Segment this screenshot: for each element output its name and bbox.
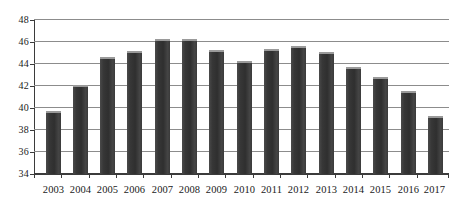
- x-tick-label-2014: 2014: [343, 184, 364, 196]
- x-tick-mark-5: [171, 174, 172, 178]
- bar-2003[interactable]: [46, 111, 61, 174]
- x-tick-label-2016: 2016: [398, 184, 419, 196]
- bar-2007[interactable]: [155, 39, 170, 174]
- y-tick-label-48: 48: [19, 15, 29, 25]
- x-tick-label-2013: 2013: [316, 184, 337, 196]
- y-tick-label-36: 36: [19, 147, 29, 157]
- y-tick-label-46: 46: [19, 37, 29, 47]
- x-tick-mark-4: [143, 174, 144, 178]
- x-tick-mark-3: [116, 174, 117, 178]
- bar-2008[interactable]: [182, 39, 197, 174]
- x-tick-label-2003: 2003: [43, 184, 64, 196]
- bar-2013[interactable]: [319, 52, 334, 174]
- x-tick-mark-11: [335, 174, 336, 178]
- bar-2010[interactable]: [237, 61, 252, 174]
- x-tick-label-2005: 2005: [97, 184, 118, 196]
- x-tick-label-2015: 2015: [370, 184, 391, 196]
- y-tick-label-44: 44: [19, 59, 29, 69]
- x-tick-mark-12: [362, 174, 363, 178]
- x-tick-mark-9: [280, 174, 281, 178]
- y-tick-label-38: 38: [19, 125, 29, 135]
- y-tick-label-34: 34: [19, 169, 29, 179]
- bar-2006[interactable]: [127, 51, 142, 174]
- bar-2017[interactable]: [428, 116, 443, 174]
- bar-2012[interactable]: [291, 46, 306, 174]
- x-tick-label-2006: 2006: [124, 184, 145, 196]
- x-tick-mark-1: [61, 174, 62, 178]
- x-tick-label-2010: 2010: [234, 184, 255, 196]
- bars-layer: [34, 19, 449, 174]
- bar-2016[interactable]: [401, 91, 416, 174]
- bar-2004[interactable]: [73, 85, 88, 174]
- bar-2015[interactable]: [373, 77, 388, 174]
- y-tick-label-40: 40: [19, 103, 29, 113]
- x-tick-mark-13: [389, 174, 390, 178]
- y-tick-label-42: 42: [19, 81, 29, 91]
- x-tick-mark-0: [34, 174, 35, 178]
- x-tick-mark-10: [307, 174, 308, 178]
- bar-2014[interactable]: [346, 67, 361, 174]
- x-tick-label-2009: 2009: [206, 184, 227, 196]
- bar-chart: 48 46 44 42 40 38 36 34: [0, 0, 453, 208]
- x-tick-mark-2: [89, 174, 90, 178]
- x-tick-label-2012: 2012: [288, 184, 309, 196]
- bar-2005[interactable]: [100, 57, 115, 174]
- x-tick-mark-14: [417, 174, 418, 178]
- bar-2011[interactable]: [264, 49, 279, 174]
- y-axis: 48 46 44 42 40 38 36 34: [0, 0, 34, 208]
- x-tick-mark-6: [198, 174, 199, 178]
- x-tick-mark-7: [225, 174, 226, 178]
- x-tick-mark-8: [253, 174, 254, 178]
- plot-area: [34, 19, 449, 174]
- bar-2009[interactable]: [209, 50, 224, 174]
- x-tick-label-2007: 2007: [152, 184, 173, 196]
- x-tick-label-2017: 2017: [424, 184, 445, 196]
- x-tick-mark-15: [448, 174, 449, 178]
- x-tick-label-2004: 2004: [70, 184, 91, 196]
- x-tick-label-2011: 2011: [261, 184, 282, 196]
- x-axis-line: [34, 174, 449, 175]
- x-tick-label-2008: 2008: [179, 184, 200, 196]
